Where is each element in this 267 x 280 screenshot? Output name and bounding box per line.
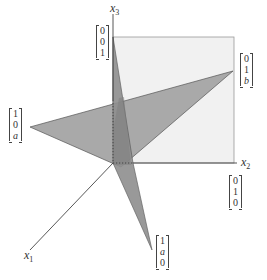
diagram-canvas: x3 x2 x1 bbox=[0, 0, 267, 280]
vector-label-1a0: 1a0 bbox=[156, 235, 169, 268]
x3-axis-label: x3 bbox=[109, 1, 119, 17]
x1-axis bbox=[30, 163, 113, 250]
vector-label-01b: 01b bbox=[240, 53, 253, 86]
x2-axis-label: x2 bbox=[240, 155, 250, 171]
x1-axis-label: x1 bbox=[23, 248, 33, 264]
vector-label-010: 010 bbox=[229, 175, 242, 208]
vector-label-10a: 10a bbox=[9, 108, 22, 141]
vector-label-001: 001 bbox=[96, 25, 109, 58]
